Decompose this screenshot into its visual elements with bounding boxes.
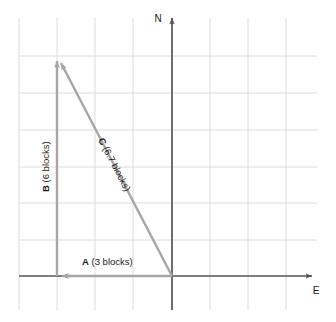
vector-diagram-canvas: A (3 blocks) B (6 blocks) C (6.7 blocks)… <box>0 0 336 322</box>
north-axis-label: N <box>154 13 161 24</box>
vector-labels: A (3 blocks) B (6 blocks) C (6.7 blocks) <box>40 136 133 267</box>
vector-b-label: B (6 blocks) <box>40 141 51 192</box>
grid-vertical-lines <box>19 18 286 310</box>
grid-horizontal-lines <box>19 56 317 240</box>
axes <box>19 18 312 310</box>
vector-a-label-magnitude: (3 blocks) <box>89 256 133 267</box>
vector-b-label-magnitude: (6 blocks) <box>40 141 51 185</box>
vector-a-label: A (3 blocks) <box>82 256 133 267</box>
axis-labels: N E <box>154 13 319 296</box>
vector-diagram-svg: A (3 blocks) B (6 blocks) C (6.7 blocks)… <box>0 0 336 322</box>
east-axis-label: E <box>313 285 320 296</box>
vector-c-label: C (6.7 blocks) <box>96 136 133 193</box>
